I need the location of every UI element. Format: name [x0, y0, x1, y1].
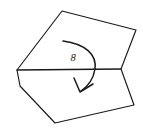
rotation-arc	[63, 41, 95, 91]
polygon-outline	[17, 11, 136, 123]
angle-label: 8	[70, 52, 76, 63]
horizontal-chord	[17, 69, 121, 70]
arrow-head-icon	[74, 78, 93, 92]
figure-canvas: 8	[0, 0, 143, 135]
geometry-figure: 8	[0, 0, 143, 135]
